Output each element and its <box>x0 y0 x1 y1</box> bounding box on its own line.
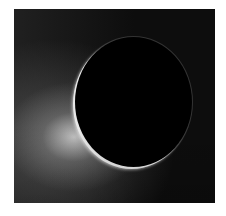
space-photo <box>14 9 215 203</box>
vignette <box>14 9 215 203</box>
